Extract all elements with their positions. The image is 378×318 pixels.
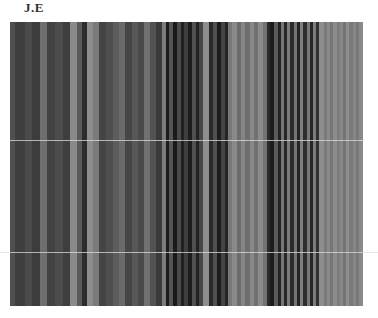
stripe: [55, 22, 63, 306]
stripe: [106, 22, 114, 306]
horizontal-line: [0, 252, 378, 253]
stripe-pattern: [10, 22, 364, 306]
stripe: [15, 22, 25, 306]
corner-label: J.E: [24, 0, 44, 16]
stripe: [359, 22, 363, 306]
stripe: [32, 22, 41, 306]
stripe: [63, 22, 71, 306]
stripe: [47, 22, 56, 306]
horizontal-line: [10, 140, 364, 141]
